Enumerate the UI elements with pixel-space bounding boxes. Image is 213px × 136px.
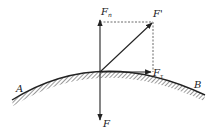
label-normal-force: Fn xyxy=(100,6,112,18)
force-diagram: Fn F' Fτ F A B xyxy=(0,0,213,136)
label-applied-force: F xyxy=(102,118,111,129)
resultant-force-arrow xyxy=(100,23,152,72)
label-resultant-force: F' xyxy=(152,8,163,19)
label-point-a: A xyxy=(15,83,23,94)
label-point-b: B xyxy=(193,79,201,90)
label-tangential-force: Fτ xyxy=(152,67,164,79)
surface-hatching xyxy=(12,71,205,106)
